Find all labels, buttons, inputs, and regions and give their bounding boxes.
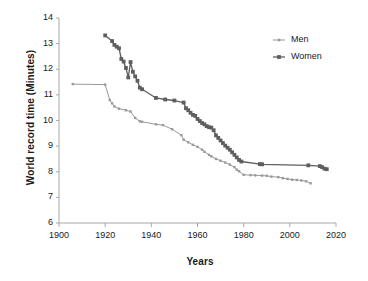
y-tick-label: 13 xyxy=(31,38,53,48)
data-point-marker xyxy=(266,175,268,177)
x-tick-label: 1960 xyxy=(178,230,218,240)
data-point-marker xyxy=(192,144,194,146)
data-point-marker xyxy=(72,83,74,85)
series-line xyxy=(73,84,311,183)
data-point-marker xyxy=(277,176,279,178)
data-point-marker xyxy=(124,66,128,70)
data-point-marker xyxy=(129,60,133,64)
data-point-marker xyxy=(212,128,216,132)
axis-tick-marks xyxy=(56,18,336,227)
data-point-marker xyxy=(260,162,264,166)
data-point-marker xyxy=(309,182,311,184)
data-point-marker xyxy=(155,123,157,125)
data-point-marker xyxy=(286,178,288,180)
data-point-marker xyxy=(118,108,120,110)
data-point-marker xyxy=(236,169,238,171)
data-point-marker xyxy=(296,179,298,181)
data-point-marker xyxy=(300,179,302,181)
data-point-marker xyxy=(306,163,310,167)
data-point-marker xyxy=(134,117,136,119)
data-point-marker xyxy=(291,178,293,180)
x-tick-label: 1900 xyxy=(39,230,79,240)
data-point-marker xyxy=(282,177,284,179)
legend-marker-men xyxy=(278,39,281,42)
data-point-marker xyxy=(122,60,126,64)
chart-container: World record time (Minutes) Years 141312… xyxy=(0,0,368,281)
data-point-marker xyxy=(182,139,184,141)
data-point-marker xyxy=(109,99,111,101)
data-point-marker xyxy=(141,121,143,123)
data-point-marker xyxy=(229,163,231,165)
data-point-marker xyxy=(182,101,186,105)
data-point-marker xyxy=(201,149,203,151)
data-point-marker xyxy=(180,134,182,136)
y-tick-label: 12 xyxy=(31,63,53,73)
data-point-marker xyxy=(325,167,329,171)
data-point-marker xyxy=(242,174,244,176)
data-point-marker xyxy=(210,155,212,157)
y-tick-label: 7 xyxy=(31,191,53,201)
data-point-marker xyxy=(239,160,243,164)
data-point-marker xyxy=(111,102,113,104)
data-point-marker xyxy=(117,46,121,50)
legend-label-women: Women xyxy=(291,51,322,61)
data-point-marker xyxy=(208,154,210,156)
data-point-marker xyxy=(131,70,135,74)
data-point-marker xyxy=(133,75,137,79)
data-point-marker xyxy=(219,160,221,162)
data-point-marker xyxy=(203,151,205,153)
data-point-marker xyxy=(154,96,158,100)
y-tick-label: 6 xyxy=(31,217,53,227)
data-point-marker xyxy=(305,180,307,182)
y-tick-label: 9 xyxy=(31,140,53,150)
y-tick-label: 8 xyxy=(31,166,53,176)
legend-marker-women xyxy=(277,55,281,59)
legend-markers xyxy=(273,39,285,59)
x-tick-label: 1920 xyxy=(85,230,125,240)
data-point-marker xyxy=(171,128,173,130)
y-tick-label: 14 xyxy=(31,12,53,22)
data-point-marker xyxy=(126,76,130,80)
data-point-marker xyxy=(233,166,235,168)
data-point-marker xyxy=(139,120,141,122)
x-tick-label: 1980 xyxy=(224,230,264,240)
data-point-marker xyxy=(187,141,189,143)
legend-label-men: Men xyxy=(291,34,309,44)
data-point-marker xyxy=(104,83,106,85)
x-axis-title: Years xyxy=(60,256,340,267)
data-point-marker xyxy=(215,158,217,160)
data-point-marker xyxy=(238,170,240,172)
series-men xyxy=(72,83,312,185)
data-point-marker xyxy=(196,146,198,148)
data-point-marker xyxy=(113,105,115,107)
x-tick-label: 1940 xyxy=(131,230,171,240)
x-tick-label: 2020 xyxy=(316,230,356,240)
data-point-marker xyxy=(173,99,177,103)
data-point-marker xyxy=(103,34,107,38)
data-point-marker xyxy=(163,98,167,102)
data-point-marker xyxy=(249,174,251,176)
data-point-marker xyxy=(136,79,140,83)
data-point-marker xyxy=(270,175,272,177)
data-point-marker xyxy=(140,87,144,91)
data-point-marker xyxy=(162,124,164,126)
data-point-marker xyxy=(254,174,256,176)
data-point-marker xyxy=(125,109,127,111)
x-tick-label: 2000 xyxy=(270,230,310,240)
data-point-marker xyxy=(110,39,114,43)
data-point-marker xyxy=(129,110,131,112)
y-tick-label: 11 xyxy=(31,89,53,99)
y-tick-label: 10 xyxy=(31,115,53,125)
data-point-marker xyxy=(224,161,226,163)
data-point-marker xyxy=(261,174,263,176)
